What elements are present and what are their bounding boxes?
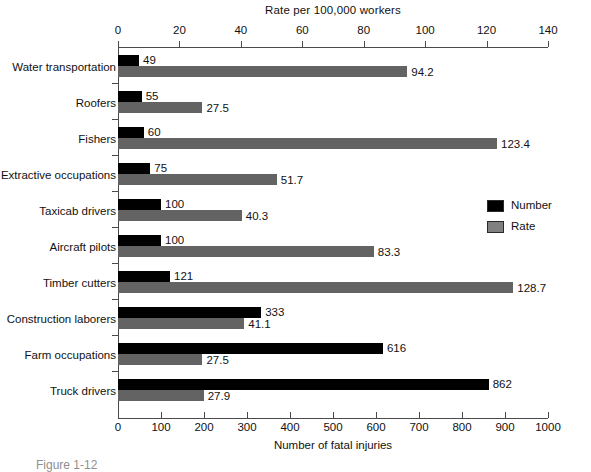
bottom-axis-tick: [204, 412, 205, 418]
bottom-axis-tick: [333, 412, 334, 418]
bottom-axis-tick-label: 300: [237, 421, 256, 433]
bar-value-number: 616: [387, 342, 406, 354]
bar-number: [118, 343, 383, 354]
bar-number: [118, 379, 489, 390]
category-tick: [112, 371, 118, 372]
bottom-axis-line: [118, 418, 548, 419]
bar-number: [118, 163, 150, 174]
top-axis-tick-label: 140: [538, 24, 557, 36]
category-tick: [112, 299, 118, 300]
bottom-axis-tick: [462, 412, 463, 418]
top-axis-line: [118, 47, 548, 48]
bar-value-number: 49: [143, 54, 156, 66]
top-axis-tick: [487, 41, 488, 47]
top-axis-title: Rate per 100,000 workers: [118, 4, 548, 16]
category-label: Farm occupations: [25, 349, 116, 361]
top-axis-tick: [118, 41, 119, 47]
bottom-axis-title: Number of fatal injuries: [118, 439, 548, 451]
bar-number: [118, 127, 144, 138]
bottom-axis-tick-label: 200: [194, 421, 213, 433]
bar-rate: [118, 354, 202, 365]
category-tick: [112, 119, 118, 120]
bar-rate: [118, 174, 277, 185]
category-label: Fishers: [78, 133, 116, 145]
bar-value-rate: 83.3: [378, 246, 400, 258]
bar-rate: [118, 66, 407, 77]
bar-value-number: 333: [265, 306, 284, 318]
top-axis-tick-label: 120: [477, 24, 496, 36]
top-axis-tick: [548, 41, 549, 47]
bar-value-rate: 27.5: [206, 102, 228, 114]
figure-caption: Figure 1-12: [36, 458, 97, 472]
top-axis-tick: [364, 41, 365, 47]
bar-rate: [118, 210, 242, 221]
legend-label: Number: [511, 198, 552, 213]
bottom-axis-tick: [419, 412, 420, 418]
legend-label: Rate: [511, 219, 535, 234]
category-tick: [112, 83, 118, 84]
bar-value-number: 100: [165, 198, 184, 210]
bottom-axis-tick: [247, 412, 248, 418]
bar-value-rate: 51.7: [281, 174, 303, 186]
top-axis-tick: [179, 41, 180, 47]
bottom-axis-tick-label: 0: [115, 421, 121, 433]
bar-number: [118, 307, 261, 318]
bar-value-number: 121: [174, 270, 193, 282]
bottom-axis-tick: [118, 412, 119, 418]
bar-number: [118, 271, 170, 282]
bar-value-number: 75: [154, 162, 167, 174]
category-label: Roofers: [76, 97, 116, 109]
top-axis-tick-label: 20: [173, 24, 186, 36]
category-label: Timber cutters: [43, 277, 116, 289]
category-tick: [112, 155, 118, 156]
top-axis-tick-label: 60: [296, 24, 309, 36]
top-axis-tick-label: 100: [416, 24, 435, 36]
top-axis-tick: [425, 41, 426, 47]
category-label: Truck drivers: [50, 385, 116, 397]
bottom-axis-tick-label: 700: [409, 421, 428, 433]
top-axis-tick-label: 0: [115, 24, 121, 36]
bottom-axis-tick: [290, 412, 291, 418]
bar-value-number: 100: [165, 234, 184, 246]
bottom-axis-tick-label: 100: [151, 421, 170, 433]
top-axis-tick-label: 80: [357, 24, 370, 36]
bottom-axis-tick-label: 1000: [535, 421, 561, 433]
bar-number: [118, 55, 139, 66]
bar-value-number: 60: [148, 126, 161, 138]
category-tick: [112, 227, 118, 228]
category-label: Construction laborers: [7, 313, 116, 325]
bottom-axis-tick-label: 600: [366, 421, 385, 433]
bar-value-rate: 128.7: [517, 282, 546, 294]
bar-value-number: 55: [146, 90, 159, 102]
bottom-axis-tick-label: 900: [495, 421, 514, 433]
bar-value-rate: 27.9: [208, 390, 230, 402]
bar-rate: [118, 138, 497, 149]
bar-rate: [118, 390, 204, 401]
bar-value-rate: 94.2: [411, 66, 433, 78]
bar-number: [118, 235, 161, 246]
top-axis-tick-label: 40: [234, 24, 247, 36]
bar-rate: [118, 102, 202, 113]
top-axis-tick: [302, 41, 303, 47]
top-axis-tick: [241, 41, 242, 47]
category-tick: [112, 263, 118, 264]
category-tick: [112, 335, 118, 336]
category-tick: [112, 191, 118, 192]
bottom-axis-tick: [548, 412, 549, 418]
bar-rate: [118, 282, 513, 293]
bottom-axis-tick: [376, 412, 377, 418]
bar-number: [118, 199, 161, 210]
bar-number: [118, 91, 142, 102]
bottom-axis-tick-label: 800: [452, 421, 471, 433]
legend-swatch-icon: [487, 200, 504, 212]
category-label: Extractive occupations: [1, 169, 116, 181]
bar-value-number: 862: [493, 378, 512, 390]
category-label: Water transportation: [12, 61, 116, 73]
bottom-axis-tick: [505, 412, 506, 418]
bottom-axis-tick-label: 400: [280, 421, 299, 433]
category-label: Taxicab drivers: [39, 205, 116, 217]
category-label: Aircraft pilots: [50, 241, 116, 253]
bar-rate: [118, 246, 374, 257]
bar-rate: [118, 318, 244, 329]
